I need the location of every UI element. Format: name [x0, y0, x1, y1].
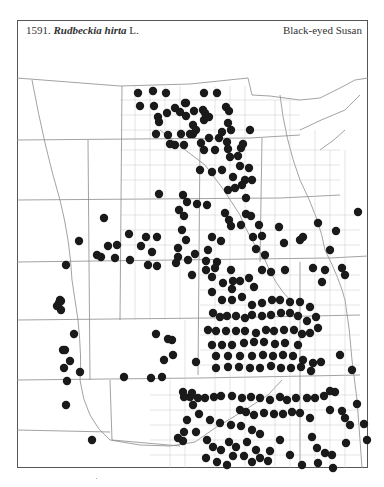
occurrence-dot [164, 131, 172, 139]
occurrence-dot [189, 401, 197, 409]
occurrence-dot [329, 464, 337, 472]
occurrence-dot [280, 239, 288, 247]
occurrence-dot [212, 364, 220, 372]
occurrence-dot [223, 461, 231, 469]
occurrence-dot [210, 393, 218, 401]
occurrence-dot [276, 436, 284, 444]
occurrence-dot [63, 377, 71, 385]
occurrence-dot [306, 329, 314, 337]
occurrence-dot [256, 394, 264, 402]
occurrence-dot [158, 373, 166, 381]
occurrence-dot [227, 421, 235, 429]
occurrence-dot [248, 352, 256, 360]
occurrence-dot [296, 298, 304, 306]
occurrence-dot [224, 352, 232, 360]
occurrence-dot [196, 166, 204, 174]
occurrence-dot [259, 351, 267, 359]
occurrence-dot [212, 352, 220, 360]
occurrence-dot [204, 246, 212, 254]
occurrence-dot [120, 373, 128, 381]
occurrence-dot [250, 283, 258, 291]
occurrence-dot [178, 226, 186, 234]
occurrence-dot [266, 447, 274, 455]
occurrence-dot [256, 364, 264, 372]
occurrence-dot [240, 339, 248, 347]
occurrence-dot [88, 436, 96, 444]
occurrence-dot [236, 352, 244, 360]
occurrence-dot [153, 233, 161, 241]
occurrence-dots [53, 87, 371, 472]
occurrence-dot [252, 245, 260, 253]
occurrence-dot [224, 363, 232, 371]
occurrence-dot [111, 254, 119, 262]
occurrence-dot [188, 271, 196, 279]
occurrence-dot [336, 351, 344, 359]
occurrence-dot [188, 389, 196, 397]
occurrence-dot [354, 208, 362, 216]
occurrence-dot [248, 301, 256, 309]
occurrence-dot [66, 357, 74, 365]
occurrence-dot [200, 89, 208, 97]
occurrence-dot [213, 89, 221, 97]
occurrence-dot [147, 374, 155, 382]
occurrence-dot [191, 250, 199, 258]
occurrence-dot [126, 256, 134, 264]
occurrence-dot [250, 411, 258, 419]
occurrence-dot [205, 134, 213, 142]
occurrence-dot [150, 102, 158, 110]
occurrence-dot [242, 408, 250, 416]
occurrence-dot [136, 102, 144, 110]
occurrence-dot [97, 253, 105, 261]
occurrence-dot [296, 236, 304, 244]
occurrence-dot [62, 261, 70, 269]
occurrence-dot [258, 312, 266, 320]
occurrence-dot [237, 221, 245, 229]
occurrence-dot [189, 130, 197, 138]
occurrence-dot [276, 393, 284, 401]
occurrence-dot [260, 338, 268, 346]
occurrence-dot [279, 410, 287, 418]
occurrence-dot [60, 364, 68, 372]
occurrence-dot [160, 356, 168, 364]
occurrence-dot [222, 327, 230, 335]
occurrence-dot [180, 393, 188, 401]
occurrence-dot [276, 296, 284, 304]
occurrence-dot [241, 327, 249, 335]
occurrence-dot [125, 230, 133, 238]
occurrence-dot [192, 358, 200, 366]
occurrence-dot [104, 242, 112, 250]
occurrence-dot [234, 152, 242, 160]
occurrence-dot [171, 141, 179, 149]
occurrence-dot [182, 236, 190, 244]
occurrence-dot [296, 409, 304, 417]
distribution-map [0, 0, 384, 487]
occurrence-dot [346, 421, 354, 429]
occurrence-dot [183, 416, 191, 424]
occurrence-dot [245, 164, 253, 172]
occurrence-dot [235, 363, 243, 371]
occurrence-dot [363, 436, 371, 444]
occurrence-dot [270, 327, 278, 335]
occurrence-dot [148, 248, 156, 256]
occurrence-dot [298, 461, 306, 469]
occurrence-dot [290, 326, 298, 334]
occurrence-dot [298, 330, 306, 338]
occurrence-dot [169, 351, 177, 359]
occurrence-dot [174, 244, 182, 252]
occurrence-dot [321, 266, 329, 274]
occurrence-dot [271, 340, 279, 348]
occurrence-dot [314, 459, 322, 467]
occurrence-dot [277, 309, 285, 317]
occurrence-dot [239, 140, 247, 148]
occurrence-dot [270, 410, 278, 418]
occurrence-dot [180, 141, 188, 149]
occurrence-dot [192, 428, 200, 436]
occurrence-dot [256, 454, 264, 462]
occurrence-dot [237, 422, 245, 430]
occurrence-dot [275, 223, 283, 231]
occurrence-dot [267, 268, 275, 276]
occurrence-dot [174, 434, 182, 442]
occurrence-dot [183, 198, 191, 206]
occurrence-dot [236, 162, 244, 170]
occurrence-dot [314, 219, 322, 227]
